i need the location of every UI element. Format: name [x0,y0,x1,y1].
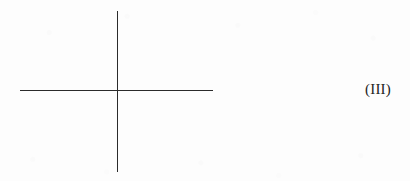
horizontal-axis-line [20,90,213,91]
vertical-axis-line [117,11,118,172]
coordinate-axes-figure [0,0,410,181]
figure-canvas: (III) [0,0,410,181]
figure-label: (III) [365,82,391,97]
